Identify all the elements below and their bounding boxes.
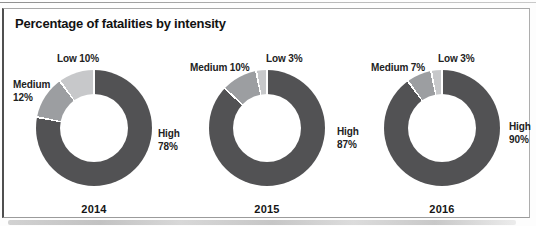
medium-slice-label-2016: Medium 7%: [371, 61, 425, 74]
year-label-2016: 2016: [402, 203, 482, 215]
year-label-2014: 2014: [54, 203, 134, 215]
scan-artifact-top-line: [0, 2, 536, 3]
donut-ring-2015: [209, 70, 325, 186]
medium-slice-label-2014: Medium 12%: [13, 78, 65, 104]
donut-ring-2016: [384, 70, 500, 186]
figure-title: Percentage of fatalities by intensity: [15, 16, 226, 31]
low-slice-label-2016: Low 3%: [438, 52, 475, 65]
low-slice-label-2015: Low 3%: [266, 52, 303, 65]
high-slice-label-2016: High 90%: [509, 120, 536, 146]
medium-slice-label-2015: Medium 10%: [190, 61, 250, 74]
high-slice-label-2015: High 87%: [337, 125, 371, 151]
year-label-2015: 2015: [227, 203, 307, 215]
figure-frame: Percentage of fatalities by intensity Lo…: [2, 8, 530, 218]
scan-artifact-bottom-smudge: [8, 220, 516, 225]
low-slice-label-2014: Low 10%: [57, 52, 99, 65]
high-slice-label-2014: High 78%: [158, 127, 192, 153]
